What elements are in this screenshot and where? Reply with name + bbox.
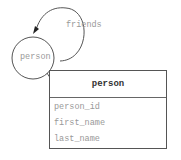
- table-field: person_id: [50, 99, 166, 115]
- arrow-head-icon: [33, 26, 39, 34]
- entity-node-label: person: [20, 52, 51, 62]
- table-field: last_name: [50, 131, 166, 147]
- relationship-label: friends: [66, 20, 102, 30]
- table-title: person: [50, 71, 166, 98]
- table-fields: person_id first_name last_name: [50, 98, 166, 147]
- table-field: first_name: [50, 115, 166, 131]
- entity-table: person person_id first_name last_name: [49, 70, 167, 149]
